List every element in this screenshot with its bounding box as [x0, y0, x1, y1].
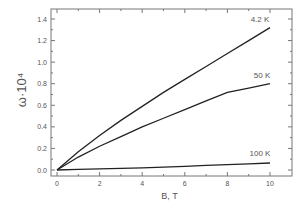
series-line: [57, 28, 270, 170]
y-tick-label: 1.0: [37, 59, 47, 66]
series-line: [57, 84, 270, 170]
x-tick-label: 4: [140, 180, 144, 187]
series-lines: 4.2 K50 K100 K: [57, 15, 271, 170]
y-tick-label: 0.2: [37, 145, 47, 152]
series-line: [57, 163, 270, 170]
y-tick-label: 1.4: [37, 16, 47, 23]
x-tick-label: 0: [55, 180, 59, 187]
x-tick-label: 8: [225, 180, 229, 187]
series-label: 4.2 K: [251, 15, 270, 24]
chart: 02468100.00.20.40.60.81.01.21.4 4.2 K50 …: [0, 0, 307, 212]
y-tick-label: 0.0: [37, 167, 47, 174]
labels: B, Tω·10⁴: [14, 73, 178, 201]
x-tick-label: 6: [183, 180, 187, 187]
y-tick-label: 0.6: [37, 102, 47, 109]
y-tick-label: 1.2: [37, 37, 47, 44]
y-axis-label: ω·10⁴: [14, 73, 29, 108]
series-label: 50 K: [254, 71, 271, 80]
series-label: 100 K: [250, 149, 272, 158]
plot-frame: 02468100.00.20.40.60.81.01.21.4: [37, 9, 292, 187]
y-tick-label: 0.8: [37, 80, 47, 87]
x-axis-label: B, T: [161, 191, 178, 201]
x-tick-label: 2: [98, 180, 102, 187]
x-tick-label: 10: [266, 180, 274, 187]
y-tick-label: 0.4: [37, 123, 47, 130]
